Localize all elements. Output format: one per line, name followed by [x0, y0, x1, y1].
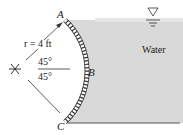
- point-b-label: B: [88, 67, 95, 78]
- water-label: Water: [142, 45, 166, 55]
- arrowhead-icon: [56, 22, 63, 28]
- point-c-label: C: [57, 121, 64, 132]
- radius-line-lower: [26, 49, 38, 60]
- angle-top-label: 45°: [38, 57, 52, 67]
- radius-line-c: [28, 80, 60, 113]
- free-surface-icon: [148, 8, 158, 16]
- water-region: [65, 20, 183, 123]
- point-a-label: A: [57, 9, 64, 20]
- water-surface-band: [95, 18, 183, 22]
- angle-bottom-label: 45°: [38, 72, 52, 82]
- radius-label: r = 4 ft: [24, 39, 52, 49]
- center-mark: [9, 64, 21, 74]
